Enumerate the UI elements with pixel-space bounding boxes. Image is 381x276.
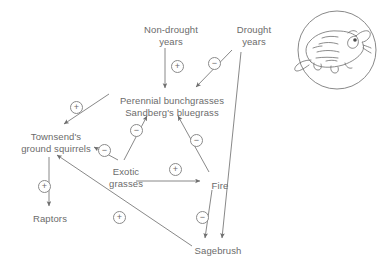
node-perennial-bunchgrasses: Perennial bunchgrasses Sandberg's bluegr… (108, 95, 236, 118)
node-exotic-grasses: Exotic grasses (104, 166, 148, 189)
ground-squirrel-illustration (295, 11, 376, 89)
node-perennial-bunchgrasses-line-1: Perennial bunchgrasses (108, 95, 236, 107)
node-non-drought-years-line-2: years (131, 36, 211, 48)
sign-badge-fire-to-sagebrush: − (196, 211, 209, 224)
node-drought-years: Drought years (228, 24, 280, 47)
node-fire: Fire (207, 180, 233, 192)
node-fire-line-1: Fire (207, 180, 233, 192)
sign-badge-exotic-to-perennial: − (130, 124, 143, 137)
sign-badge-sagebrush-to-squirrels: + (113, 211, 126, 224)
node-townsends-ground-squirrels: Townsend's ground squirrels (14, 131, 98, 154)
node-non-drought-years-line-1: Non-drought (131, 24, 211, 36)
node-raptors-line-1: Raptors (28, 213, 72, 225)
node-perennial-bunchgrasses-line-2: Sandberg's bluegrass (108, 107, 236, 119)
node-exotic-grasses-line-1: Exotic (104, 166, 148, 178)
sign-badge-exotic-to-squirrels: − (98, 144, 111, 157)
node-raptors: Raptors (28, 213, 72, 225)
node-drought-years-line-2: years (228, 36, 280, 48)
node-sagebrush-line-1: Sagebrush (190, 245, 246, 257)
arrow-exotic-to-perennial (124, 116, 147, 160)
sign-badge-perennial-to-squirrels: + (70, 101, 83, 114)
ecological-causal-diagram: Non-drought years Drought years Perennia… (0, 0, 381, 276)
sign-badge-exotic-to-fire: + (169, 163, 182, 176)
arrow-drought-to-sagebrush (222, 52, 241, 238)
sign-badge-non-drought-to-perennial: + (171, 60, 184, 73)
node-townsends-ground-squirrels-line-1: Townsend's (14, 131, 98, 143)
node-sagebrush: Sagebrush (190, 245, 246, 257)
node-drought-years-line-1: Drought (228, 24, 280, 36)
node-exotic-grasses-line-2: grasses (104, 178, 148, 190)
node-townsends-ground-squirrels-line-2: ground squirrels (14, 143, 98, 155)
sign-badge-squirrels-to-raptors: + (38, 180, 51, 193)
sign-badge-drought-to-perennial: − (208, 57, 221, 70)
node-non-drought-years: Non-drought years (131, 24, 211, 47)
sign-badge-fire-to-perennial: − (190, 134, 203, 147)
